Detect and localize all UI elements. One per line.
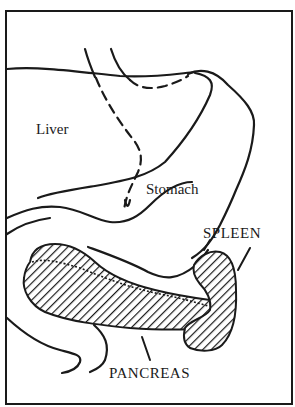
spleen-leader-left [204,240,210,250]
spleen-leader-right [238,248,250,270]
bowel-upper-left [7,218,50,234]
label-liver: Liver [36,122,68,137]
duodenum-lower-loop [7,318,80,373]
pancreas-shape [24,244,211,330]
duodenum-lower-loop-inner [90,325,107,372]
dashed-line-esophagus [96,78,141,210]
liver-upper-border [7,68,195,76]
anatomy-diagram [0,0,295,407]
label-pancreas: PANCREAS [109,366,190,381]
dashed-line-cardia [130,76,188,88]
label-stomach: Stomach [146,182,199,197]
label-spleen: SPLEEN [203,226,261,241]
pancreas-leader [142,337,150,360]
